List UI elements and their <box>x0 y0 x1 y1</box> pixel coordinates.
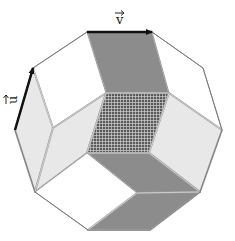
tiling-figure: v u <box>0 0 235 241</box>
zonogon-diagram: v u <box>0 0 235 241</box>
label-u: u <box>4 95 21 104</box>
label-v: v <box>115 11 124 28</box>
